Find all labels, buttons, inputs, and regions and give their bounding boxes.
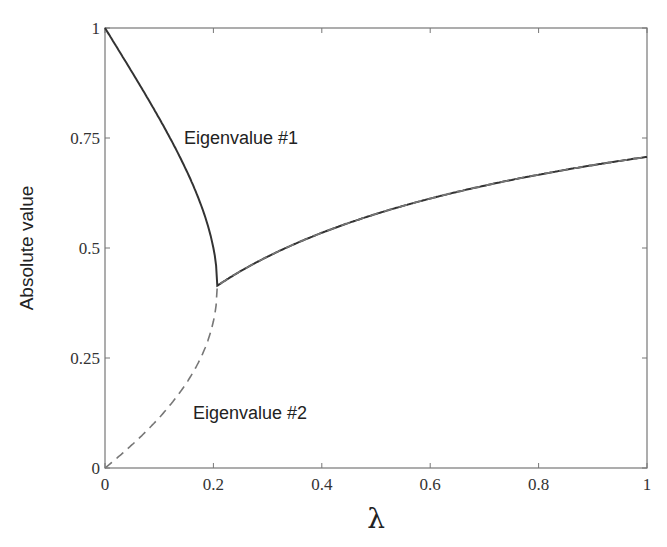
x-tick-label: 1: [643, 475, 652, 494]
plot-frame: [105, 28, 647, 468]
x-tick-label: 0.6: [420, 475, 441, 494]
y-tick-label: 0: [92, 459, 101, 478]
x-tick-label: 0: [101, 475, 110, 494]
annotation-eigenvalue-1: Eigenvalue #1: [184, 128, 298, 148]
series-eigenvalue-1: [105, 28, 647, 286]
plot-axes: 00.20.40.60.8100.250.50.751: [70, 19, 651, 494]
y-tick-label: 0.75: [70, 129, 100, 148]
plot-curves: [105, 28, 647, 468]
annotation-eigenvalue-2: Eigenvalue #2: [193, 403, 307, 423]
y-tick-label: 1: [92, 19, 101, 38]
y-axis-label: Absolute value: [16, 186, 37, 311]
series-eigenvalue-2: [105, 157, 647, 468]
eigenvalue-chart: 00.20.40.60.8100.250.50.751 Eigenvalue #…: [0, 0, 667, 547]
x-axis-label: λ: [367, 502, 385, 535]
y-tick-label: 0.25: [70, 349, 100, 368]
x-tick-label: 0.8: [528, 475, 549, 494]
x-tick-label: 0.2: [203, 475, 224, 494]
y-tick-label: 0.5: [79, 239, 100, 258]
x-tick-label: 0.4: [311, 475, 333, 494]
